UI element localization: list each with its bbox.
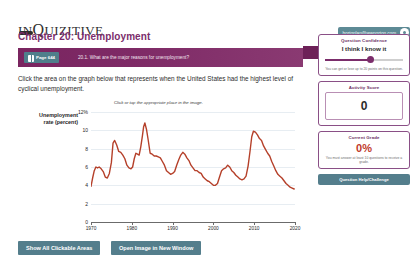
open-image-new-window-button[interactable]: Open Image in New Window: [111, 241, 202, 255]
y-axis-label-line2: rate (percent): [18, 119, 78, 126]
page-badge-label: Page 644: [36, 55, 55, 60]
y-axis-tick-label: 12%: [78, 110, 88, 115]
question-bar: Page 644 20.1. What are the major reason…: [18, 48, 303, 67]
activity-score-value: 0: [325, 92, 403, 120]
chart-plot-area[interactable]: 12%1086420197019801990200020102020: [91, 112, 295, 222]
x-axis-tick-label: 1990: [167, 226, 178, 231]
action-button-row: Show All Clickable Areas Open Image in N…: [18, 241, 207, 259]
confidence-slider-knob[interactable]: [367, 56, 374, 63]
confidence-slider[interactable]: [325, 55, 403, 64]
instruction-text: Click the area on the graph below that r…: [18, 74, 294, 94]
unemployment-rate-line: [91, 123, 294, 189]
x-axis-tick-label: 1980: [126, 226, 137, 231]
x-axis-tick-mark: [295, 222, 296, 225]
inquizitive-activity-page: INQUIZITIVE hortonlan@wwnorton.com Chapt…: [0, 0, 418, 269]
y-axis-tick-label: 8: [85, 146, 88, 151]
chart-container[interactable]: Click or tap the appropriate place in th…: [18, 100, 303, 235]
current-grade-card: Current Grade 0% You must answer at leas…: [318, 131, 410, 169]
current-grade-value: 0%: [323, 142, 405, 155]
activity-score-title: Activity Score: [323, 85, 405, 90]
question-confidence-value: I think I know it: [323, 45, 405, 52]
x-axis-tick-label: 2000: [208, 226, 219, 231]
y-axis-label-line1: Unemployment: [18, 112, 78, 119]
current-grade-title: Current Grade: [323, 135, 405, 140]
right-sidebar: Question Confidence I think I know it Yo…: [318, 34, 410, 185]
question-confidence-title: Question Confidence: [323, 38, 405, 43]
x-axis-tick-label: 1970: [86, 226, 97, 231]
question-help-challenge-button[interactable]: Question Help/Challenge: [318, 174, 410, 185]
current-grade-note: You must answer at least 10 questions to…: [323, 156, 405, 165]
question-text: 20.1. What are the major reasons for une…: [78, 53, 189, 62]
y-axis-tick-label: 4: [85, 183, 88, 188]
page-badge[interactable]: Page 644: [24, 52, 59, 63]
show-all-clickable-areas-button[interactable]: Show All Clickable Areas: [18, 241, 100, 255]
chart-y-axis-label: Unemployment rate (percent): [18, 112, 78, 126]
chart-series-layer: [91, 112, 295, 224]
chart-caption: Click or tap the appropriate place in th…: [114, 100, 203, 105]
y-axis-tick-label: 10: [82, 128, 88, 133]
y-axis-tick-label: 6: [85, 165, 88, 170]
confidence-slider-fill: [325, 59, 370, 61]
question-confidence-note: You can get or lose up to 20 points on t…: [323, 67, 405, 72]
y-axis-tick-label: 0: [85, 220, 88, 225]
x-axis-tick-label: 2020: [290, 226, 301, 231]
activity-score-card: Activity Score 0: [318, 81, 410, 126]
page-title: Chapter 20: Unemployment: [18, 31, 150, 42]
book-icon: [28, 55, 34, 62]
y-axis-tick-label: 2: [85, 201, 88, 206]
question-confidence-card: Question Confidence I think I know it Yo…: [318, 34, 410, 76]
x-axis-tick-label: 2010: [249, 226, 260, 231]
